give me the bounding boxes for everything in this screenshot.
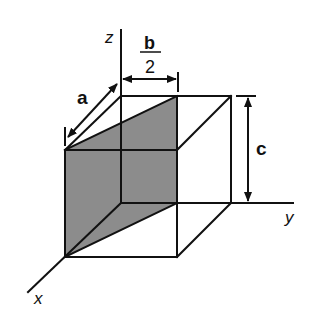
dimension-c-label: c [256,138,267,159]
box-edge-top-right [177,96,231,150]
box-edge-bottom-right [177,203,231,257]
dimension-b-label: b [144,33,155,53]
box-diagram: z y x a b 2 c [0,0,314,322]
dimension-b-denominator: 2 [145,57,155,77]
dimension-a-label: a [77,87,88,108]
z-axis-label: z [104,28,114,47]
x-axis-label: x [33,289,43,308]
y-axis-label: y [284,208,295,227]
